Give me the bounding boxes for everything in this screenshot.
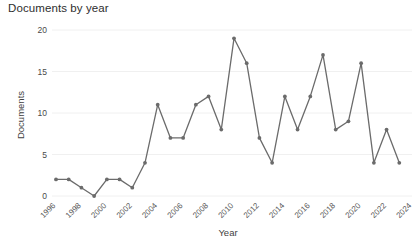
- data-point: [372, 161, 376, 165]
- data-point: [92, 194, 96, 198]
- data-point: [67, 178, 71, 182]
- data-point: [156, 103, 160, 107]
- x-axis-ticks: 1996199820002002200420062008201020122014…: [38, 201, 413, 220]
- y-tick-label: 15: [38, 67, 48, 77]
- y-tick-label: 10: [38, 108, 48, 118]
- data-point: [105, 178, 109, 182]
- y-tick-label: 5: [42, 150, 47, 160]
- x-tick-label: 2012: [242, 201, 261, 220]
- data-point: [169, 136, 173, 140]
- y-axis-title: Documents: [15, 91, 26, 139]
- data-point: [54, 178, 58, 182]
- data-point: [207, 95, 211, 99]
- x-tick-label: 1998: [64, 201, 83, 220]
- data-point: [334, 128, 338, 132]
- x-axis-title: Year: [218, 227, 237, 238]
- x-tick-label: 2016: [293, 201, 312, 220]
- x-tick-label: 2022: [369, 201, 388, 220]
- chart-plot-area: 05101520 1996199820002002200420062008201…: [0, 0, 420, 243]
- y-tick-label: 20: [38, 25, 48, 35]
- documents-by-year-chart: Documents by year 05101520 1996199820002…: [0, 0, 420, 243]
- data-series-documents: [54, 36, 401, 198]
- x-tick-label: 2002: [115, 201, 134, 220]
- data-point: [219, 128, 223, 132]
- series-line: [56, 38, 399, 196]
- data-point: [321, 53, 325, 57]
- data-point: [258, 136, 262, 140]
- data-point: [194, 103, 198, 107]
- data-point: [80, 186, 84, 190]
- data-point: [296, 128, 300, 132]
- x-tick-label: 2000: [89, 201, 108, 220]
- data-point: [181, 136, 185, 140]
- x-tick-label: 1996: [38, 201, 57, 220]
- data-point: [308, 95, 312, 99]
- x-tick-label: 2004: [140, 201, 159, 220]
- x-tick-label: 2018: [318, 201, 337, 220]
- x-tick-label: 2020: [344, 201, 363, 220]
- x-tick-label: 2010: [216, 201, 235, 220]
- data-point: [245, 61, 249, 65]
- data-point: [118, 178, 122, 182]
- data-point: [143, 161, 147, 165]
- data-point: [397, 161, 401, 165]
- data-point: [347, 119, 351, 123]
- data-point: [359, 61, 363, 65]
- y-axis-ticks: 05101520: [38, 25, 48, 201]
- data-point: [283, 95, 287, 99]
- data-point: [270, 161, 274, 165]
- x-tick-label: 2008: [191, 201, 210, 220]
- x-tick-label: 2014: [267, 201, 286, 220]
- x-tick-label: 2006: [166, 201, 185, 220]
- data-point: [385, 128, 389, 132]
- data-point: [130, 186, 134, 190]
- y-tick-label: 0: [42, 191, 47, 201]
- data-point: [232, 36, 236, 40]
- x-tick-label: 2024: [394, 201, 413, 220]
